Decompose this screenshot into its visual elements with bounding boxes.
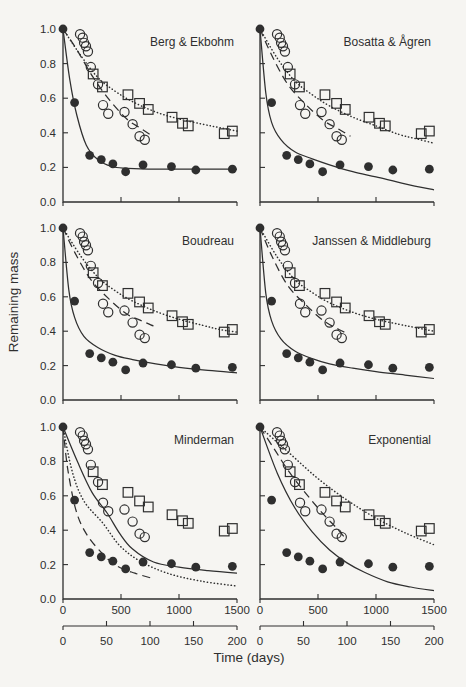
data-point-open-circle	[135, 132, 144, 141]
data-point-filled-circle	[305, 557, 314, 566]
secondary-x-axis-left: 050100150200	[60, 621, 247, 647]
y-tick-label: 0.0	[40, 593, 56, 605]
x-tick-label: 0	[257, 604, 263, 616]
axes	[260, 29, 434, 202]
data-point-filled-circle	[256, 224, 265, 233]
data-point-filled-circle	[256, 423, 265, 432]
data-point-filled-circle	[388, 166, 397, 175]
panel-title: Berg & Ekbohm	[150, 35, 234, 49]
x2-tick-label: 0	[60, 635, 66, 647]
data-point-filled-circle	[228, 562, 237, 571]
data-point-open-circle	[104, 109, 113, 118]
data-point-filled-circle	[139, 359, 148, 368]
data-point-filled-circle	[294, 552, 303, 561]
axes	[260, 427, 434, 599]
data-point-open-circle	[135, 330, 144, 339]
panel-janssen-middleburg: Janssen & Middleburg	[256, 224, 435, 404]
data-point-open-square	[364, 112, 374, 122]
data-point-open-circle	[98, 299, 107, 308]
data-point-open-circle	[140, 532, 149, 541]
data-point-filled-circle	[364, 162, 373, 171]
panel-title: Boudreau	[182, 234, 234, 248]
data-point-open-square	[183, 519, 193, 529]
axis-ticks	[63, 64, 237, 206]
data-point-open-square	[167, 112, 177, 122]
data-point-filled-circle	[267, 297, 276, 306]
panel-title: Janssen & Middleburg	[312, 234, 431, 248]
y-tick-label: 0.2	[40, 161, 56, 173]
data-point-open-square	[320, 90, 330, 100]
axes	[63, 29, 237, 202]
axes	[260, 228, 434, 400]
axis-ticks	[260, 461, 434, 603]
data-point-open-circle	[337, 333, 346, 342]
data-point-open-circle	[81, 42, 90, 51]
data-point-open-circle	[86, 460, 95, 469]
x-tick-label: 500	[308, 604, 327, 616]
data-point-filled-circle	[108, 358, 117, 367]
data-point-open-circle	[280, 246, 289, 255]
data-point-open-square	[123, 488, 133, 498]
data-point-open-square	[123, 289, 133, 299]
panel-exponential: 050010001500Exponential	[256, 423, 447, 616]
data-point-open-circle	[295, 299, 304, 308]
data-point-filled-circle	[121, 565, 130, 574]
panel-minderman: 0.00.20.40.60.81.0050010001500Minderman	[40, 421, 250, 616]
data-point-filled-circle	[364, 559, 373, 568]
x2-tick-label: 50	[297, 635, 310, 647]
data-point-filled-circle	[336, 359, 345, 368]
data-point-filled-circle	[139, 558, 148, 567]
data-point-open-square	[320, 289, 330, 299]
x-tick-label: 500	[111, 604, 130, 616]
data-point-filled-circle	[167, 559, 176, 568]
data-point-filled-circle	[388, 563, 397, 572]
x2-tick-label: 150	[381, 635, 400, 647]
data-point-open-circle	[140, 135, 149, 144]
data-point-filled-circle	[85, 349, 94, 358]
fit-line-solid	[260, 29, 434, 190]
data-point-open-square	[167, 311, 177, 321]
axis-ticks	[63, 461, 237, 603]
data-point-filled-circle	[282, 151, 291, 160]
data-point-filled-circle	[388, 364, 397, 373]
fit-line-solid	[260, 427, 434, 591]
data-point-filled-circle	[282, 349, 291, 358]
decomposition-model-figure: 0.00.20.40.60.81.0Berg & EkbohmBosatta &…	[0, 0, 466, 687]
data-point-filled-circle	[228, 363, 237, 372]
panel-title: Exponential	[368, 433, 431, 447]
data-point-filled-circle	[139, 160, 148, 169]
data-point-open-circle	[83, 246, 92, 255]
x-tick-label: 1000	[166, 604, 192, 616]
y-tick-label: 0.4	[40, 524, 57, 536]
data-point-filled-circle	[59, 423, 68, 432]
data-point-open-square	[178, 516, 188, 526]
data-point-filled-circle	[167, 162, 176, 171]
data-point-filled-circle	[318, 366, 327, 375]
data-point-open-square	[380, 519, 390, 529]
panel-boudreau: 0.00.20.40.60.81.0Boudreau	[40, 222, 237, 406]
data-point-filled-circle	[425, 562, 434, 571]
y-tick-label: 0.8	[40, 455, 56, 467]
data-point-open-circle	[128, 318, 137, 327]
y-tick-label: 0.8	[40, 256, 56, 268]
data-point-open-circle	[295, 101, 304, 110]
x2-tick-label: 200	[227, 635, 246, 647]
y-tick-label: 0.0	[40, 394, 56, 406]
y-tick-label: 0.0	[40, 196, 56, 208]
data-point-open-circle	[317, 306, 326, 315]
data-point-open-circle	[83, 445, 92, 454]
data-point-filled-circle	[191, 166, 200, 175]
y-tick-label: 0.4	[40, 127, 57, 139]
axis-ticks	[260, 262, 434, 404]
axes	[63, 228, 237, 400]
data-point-open-circle	[83, 47, 92, 56]
data-point-filled-circle	[267, 98, 276, 107]
data-point-filled-circle	[121, 366, 130, 375]
data-point-open-square	[375, 317, 385, 327]
x2-tick-label: 100	[337, 635, 356, 647]
fit-line-dashed	[63, 228, 154, 326]
data-point-filled-circle	[191, 563, 200, 572]
data-point-open-circle	[120, 505, 129, 514]
x-axis-title: Time (days)	[214, 650, 285, 665]
data-point-filled-circle	[305, 358, 314, 367]
